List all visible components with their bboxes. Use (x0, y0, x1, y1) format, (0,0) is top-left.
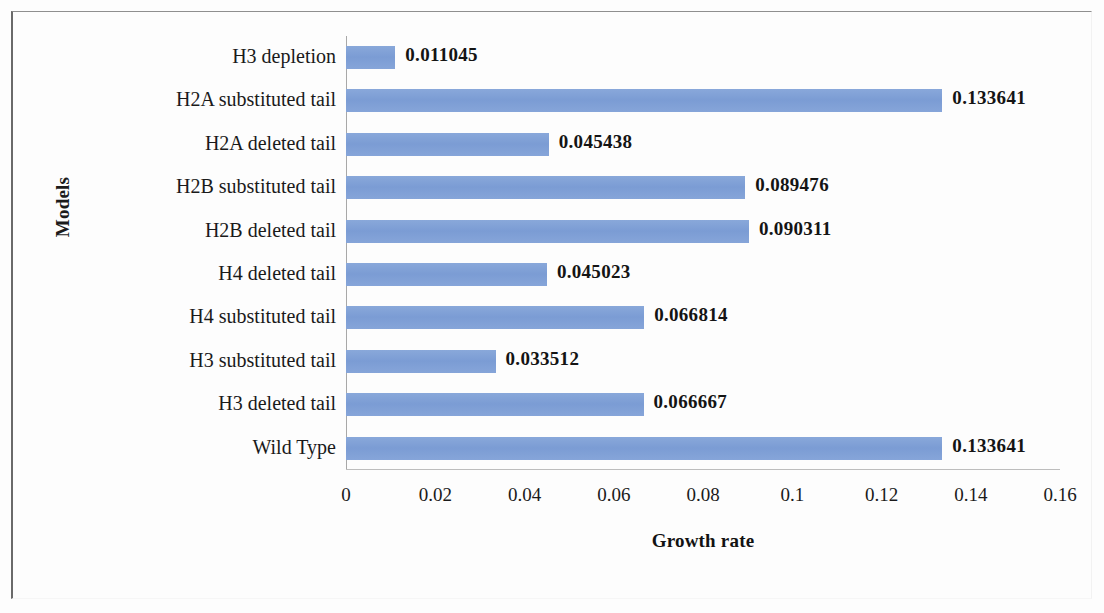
category-label: H4 substituted tail (36, 305, 336, 328)
x-tick-label: 0.04 (508, 484, 541, 506)
x-tick-label: 0.14 (954, 484, 987, 506)
bar-value-label: 0.066814 (654, 304, 728, 326)
category-label: H3 depletion (36, 45, 336, 68)
bar-row: 0.066814 (346, 296, 1060, 339)
bar-row: 0.045023 (346, 253, 1060, 296)
bar-row: 0.066667 (346, 383, 1060, 426)
category-label: H2A substituted tail (36, 88, 336, 111)
bar-row: 0.133641 (346, 427, 1060, 470)
bar[interactable] (346, 133, 549, 156)
category-label: H3 deleted tail (36, 392, 336, 415)
bar-value-label: 0.090311 (759, 218, 832, 240)
y-axis-category-labels: H3 depletionH2A substituted tailH2A dele… (36, 36, 336, 470)
bar-row: 0.089476 (346, 166, 1060, 209)
bar-value-label: 0.066667 (654, 391, 728, 413)
x-tick-label: 0.1 (780, 484, 804, 506)
x-tick-label: 0 (341, 484, 351, 506)
bar[interactable] (346, 393, 644, 416)
bar-row: 0.133641 (346, 79, 1060, 122)
bar-row: 0.011045 (346, 36, 1060, 79)
x-axis-tick-labels: 00.020.040.060.080.10.120.140.16 (346, 484, 1060, 514)
bar[interactable] (346, 89, 942, 112)
bar-value-label: 0.045438 (559, 131, 633, 153)
bar-row: 0.033512 (346, 340, 1060, 383)
bar-value-label: 0.133641 (952, 435, 1026, 457)
bar[interactable] (346, 306, 644, 329)
bar-row: 0.090311 (346, 210, 1060, 253)
bar-row: 0.045438 (346, 123, 1060, 166)
chart-figure: Models H3 depletionH2A substituted tailH… (0, 0, 1104, 613)
bar[interactable] (346, 176, 745, 199)
category-label: Wild Type (36, 436, 336, 459)
x-tick-label: 0.02 (419, 484, 452, 506)
category-label: H2A deleted tail (36, 132, 336, 155)
bar-value-label: 0.011045 (405, 44, 478, 66)
x-tick-label: 0.08 (686, 484, 719, 506)
bar[interactable] (346, 350, 496, 373)
bar-value-label: 0.133641 (952, 87, 1026, 109)
x-tick-label: 0.12 (865, 484, 898, 506)
category-label: H2B substituted tail (36, 175, 336, 198)
category-label: H3 substituted tail (36, 349, 336, 372)
bar-value-label: 0.033512 (506, 348, 580, 370)
x-axis-title: Growth rate (346, 530, 1060, 552)
plot-area: 0.0110450.1336410.0454380.0894760.090311… (346, 36, 1060, 470)
bar-value-label: 0.045023 (557, 261, 631, 283)
bar[interactable] (346, 46, 395, 69)
x-tick-label: 0.16 (1043, 484, 1076, 506)
bar-value-label: 0.089476 (755, 174, 829, 196)
bar[interactable] (346, 263, 547, 286)
category-label: H2B deleted tail (36, 219, 336, 242)
category-label: H4 deleted tail (36, 262, 336, 285)
bar[interactable] (346, 437, 942, 460)
x-tick-label: 0.06 (597, 484, 630, 506)
bar[interactable] (346, 220, 749, 243)
